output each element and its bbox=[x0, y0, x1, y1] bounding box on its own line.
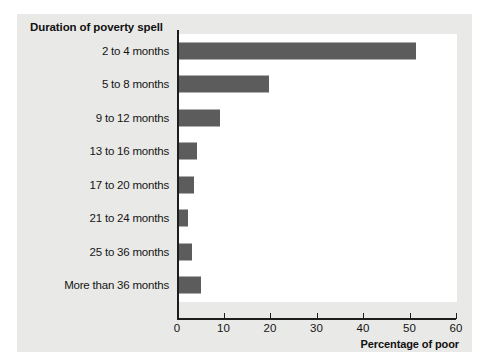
category-label: 13 to 16 months bbox=[90, 145, 169, 157]
category-label: 25 to 36 months bbox=[90, 246, 169, 258]
x-tick-label: 10 bbox=[217, 322, 230, 334]
category-label: 17 to 20 months bbox=[90, 179, 169, 191]
bar bbox=[177, 176, 194, 193]
x-tick-label: 30 bbox=[310, 322, 323, 334]
x-tick-mark bbox=[270, 313, 271, 319]
chart-panel: Duration of poverty spell 2 to 4 months5… bbox=[17, 14, 472, 352]
plot-area bbox=[177, 34, 457, 302]
chart-title: Duration of poverty spell bbox=[30, 21, 163, 33]
y-axis-line bbox=[177, 30, 179, 319]
x-tick-mark bbox=[410, 313, 411, 319]
x-tick-mark bbox=[363, 313, 364, 319]
x-axis-title: Percentage of poor bbox=[361, 338, 459, 350]
x-tick-mark bbox=[177, 313, 178, 319]
x-tick-label: 60 bbox=[450, 322, 463, 334]
x-tick-label: 50 bbox=[403, 322, 416, 334]
x-tick-label: 0 bbox=[174, 322, 180, 334]
x-tick-label: 40 bbox=[357, 322, 370, 334]
bar bbox=[177, 243, 192, 260]
category-label: 9 to 12 months bbox=[96, 112, 169, 124]
bar bbox=[177, 210, 188, 227]
bar bbox=[177, 143, 197, 160]
bar bbox=[177, 277, 201, 294]
category-axis-labels: 2 to 4 months5 to 8 months9 to 12 months… bbox=[17, 34, 175, 302]
category-label: More than 36 months bbox=[64, 279, 169, 291]
category-label: 2 to 4 months bbox=[102, 45, 169, 57]
bar bbox=[177, 42, 416, 59]
x-tick-label: 20 bbox=[264, 322, 277, 334]
x-tick-mark bbox=[224, 313, 225, 319]
bar bbox=[177, 109, 220, 126]
x-tick-mark bbox=[317, 313, 318, 319]
category-label: 5 to 8 months bbox=[102, 78, 169, 90]
bar bbox=[177, 76, 269, 93]
category-label: 21 to 24 months bbox=[90, 212, 169, 224]
x-tick-mark bbox=[456, 313, 457, 319]
